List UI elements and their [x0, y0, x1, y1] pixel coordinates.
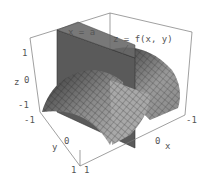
surface-label: z = f(x, y): [113, 34, 173, 44]
x-tick-neg1: -1: [186, 115, 197, 125]
surface-plot: x = a z = f(x, y) 1 z 0 -1 -1 0 y 1 1 0 …: [0, 0, 206, 176]
plane-label: x = a: [68, 27, 95, 37]
z-tick-0: 0: [24, 75, 29, 85]
x-axis-label: x: [165, 141, 171, 151]
z-tick-neg1: -1: [18, 100, 29, 110]
z-tick-1: 1: [22, 48, 27, 58]
y-tick-1: 1: [71, 165, 76, 175]
z-axis-label: z: [14, 77, 19, 87]
x-tick-0: 0: [155, 136, 160, 146]
y-axis-label: y: [52, 142, 58, 152]
y-tick-0: 0: [64, 136, 69, 146]
y-tick-neg1: -1: [24, 115, 35, 125]
x-tick-1: 1: [84, 165, 89, 175]
